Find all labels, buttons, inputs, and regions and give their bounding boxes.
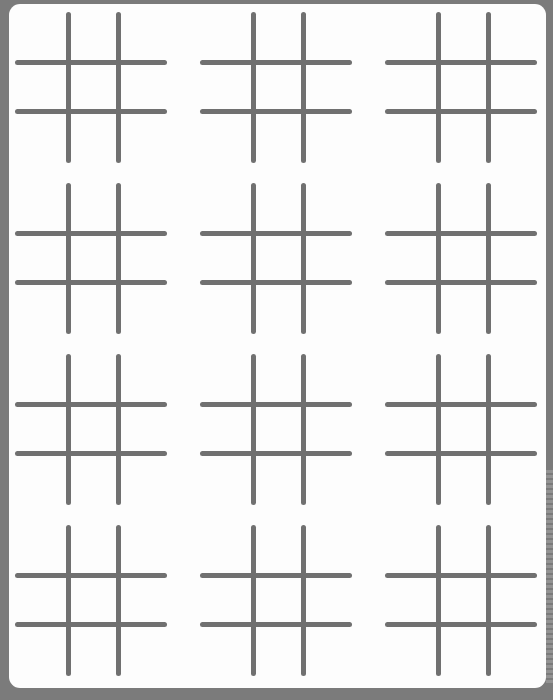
tic-tac-toe-board <box>385 12 537 164</box>
grid-line-vertical <box>66 183 71 334</box>
tic-tac-toe-board <box>385 354 537 506</box>
grid-line-horizontal <box>200 60 352 65</box>
margin-copyright-strip <box>546 470 553 685</box>
grid-line-horizontal <box>15 622 167 627</box>
tic-tac-toe-board <box>15 354 167 506</box>
tic-tac-toe-board <box>385 183 537 335</box>
grid-line-horizontal <box>385 451 537 456</box>
tic-tac-toe-board <box>200 354 352 506</box>
grid-line-vertical <box>116 354 121 505</box>
grid-line-horizontal <box>385 109 537 114</box>
grid-line-horizontal <box>385 573 537 578</box>
tic-tac-toe-board <box>385 525 537 677</box>
grid-line-vertical <box>251 525 256 676</box>
grid-line-horizontal <box>15 231 167 236</box>
grid-line-vertical <box>486 12 491 163</box>
tic-tac-toe-board <box>15 183 167 335</box>
grid-line-horizontal <box>385 231 537 236</box>
grid-line-horizontal <box>385 402 537 407</box>
grid-line-vertical <box>66 525 71 676</box>
grid-line-vertical <box>66 354 71 505</box>
tic-tac-toe-board <box>15 12 167 164</box>
grid-line-vertical <box>116 525 121 676</box>
grid-line-vertical <box>301 354 306 505</box>
grid-line-vertical <box>251 354 256 505</box>
grid-line-horizontal <box>15 451 167 456</box>
grid-line-vertical <box>436 12 441 163</box>
tic-tac-toe-board <box>15 525 167 677</box>
grid-line-vertical <box>436 354 441 505</box>
grid-line-horizontal <box>15 109 167 114</box>
grid-line-vertical <box>251 12 256 163</box>
grid-line-horizontal <box>200 622 352 627</box>
grid-line-horizontal <box>15 402 167 407</box>
grid-line-horizontal <box>15 60 167 65</box>
grid-line-vertical <box>301 12 306 163</box>
grid-line-vertical <box>301 525 306 676</box>
grid-line-vertical <box>301 183 306 334</box>
grid-line-vertical <box>436 525 441 676</box>
grid-line-horizontal <box>200 402 352 407</box>
grid-line-vertical <box>116 12 121 163</box>
grid-line-horizontal <box>15 280 167 285</box>
grid-line-vertical <box>251 183 256 334</box>
grid-line-horizontal <box>200 451 352 456</box>
grid-line-horizontal <box>200 231 352 236</box>
grid-line-horizontal <box>385 622 537 627</box>
grid-line-horizontal <box>385 280 537 285</box>
grid-line-horizontal <box>200 573 352 578</box>
tic-tac-toe-board <box>200 525 352 677</box>
tic-tac-toe-board <box>200 183 352 335</box>
grid-line-vertical <box>66 12 71 163</box>
grid-line-horizontal <box>385 60 537 65</box>
grid-line-vertical <box>116 183 121 334</box>
grid-line-vertical <box>486 525 491 676</box>
grid-line-horizontal <box>15 573 167 578</box>
grid-line-horizontal <box>200 280 352 285</box>
grid-line-vertical <box>486 354 491 505</box>
grid-line-vertical <box>436 183 441 334</box>
tic-tac-toe-board <box>200 12 352 164</box>
grid-line-horizontal <box>200 109 352 114</box>
grid-line-vertical <box>486 183 491 334</box>
